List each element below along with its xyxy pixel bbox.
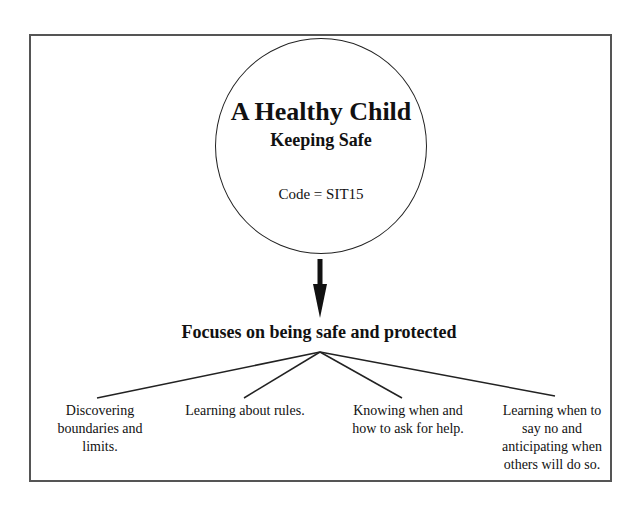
focus-heading: Focuses on being safe and protected [0, 322, 638, 343]
branch-label-boundaries: Discovering boundaries and limits. [50, 402, 150, 456]
branch-line-3 [320, 352, 402, 398]
down-arrow-icon [313, 259, 327, 318]
branch-line-2 [244, 352, 320, 398]
branch-line-4 [320, 352, 555, 396]
branch-label-ask-help: Knowing when and how to ask for help. [348, 402, 468, 438]
branch-label-say-no: Learning when to say no and anticipating… [496, 402, 608, 474]
branch-label-rules: Learning about rules. [180, 402, 310, 420]
branch-line-1 [97, 352, 320, 398]
